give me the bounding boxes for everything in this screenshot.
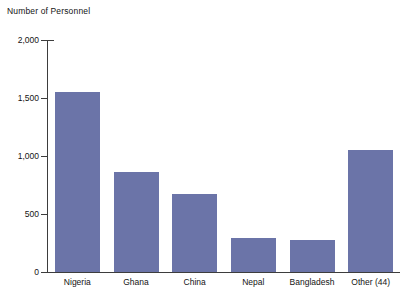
- bar-chart: Number of Personnel 05001,0001,5002,000 …: [0, 0, 409, 304]
- y-axis-tick-label: 500: [3, 210, 39, 219]
- bar: [55, 92, 100, 272]
- y-axis-tick: [41, 214, 48, 215]
- x-axis-category-label: Bangladesh: [283, 276, 342, 288]
- y-axis-tick-label: 2,000: [3, 36, 39, 45]
- y-axis-tick-label: 1,500: [3, 94, 39, 103]
- y-axis-tick: [41, 156, 48, 157]
- bar-series: [48, 40, 400, 272]
- x-axis-category-labels: NigeriaGhanaChinaNepalBangladeshOther (4…: [48, 276, 400, 296]
- y-axis-tick-label: 1,000: [3, 152, 39, 161]
- x-axis-category-label: Other (44): [341, 276, 400, 288]
- x-axis-category-label: China: [165, 276, 224, 288]
- x-axis-category-label: Nigeria: [48, 276, 107, 288]
- y-axis-tick: [41, 40, 48, 41]
- bar: [231, 238, 276, 272]
- y-axis-tick: [41, 272, 48, 273]
- bar: [348, 150, 393, 272]
- x-axis-category-label: Nepal: [224, 276, 283, 288]
- bar: [172, 194, 217, 272]
- y-axis-tick: [41, 98, 48, 99]
- x-axis-category-label: Ghana: [107, 276, 166, 288]
- y-axis-tick-label: 0: [3, 268, 39, 277]
- x-axis-line: [47, 272, 400, 273]
- bar: [290, 240, 335, 272]
- bar: [114, 172, 159, 272]
- y-axis-title: Number of Personnel: [7, 6, 90, 16]
